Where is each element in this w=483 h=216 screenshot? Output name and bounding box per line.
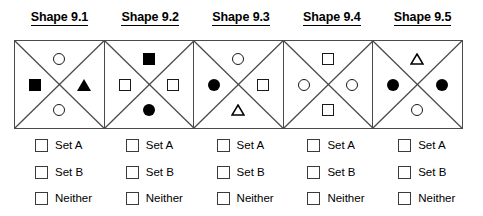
- option-label: Set B: [146, 166, 174, 179]
- shape-header-2: Shape 9.2: [105, 10, 196, 32]
- options-grid: Set ASet BNeitherSet ASet BNeitherSet AS…: [14, 132, 468, 212]
- glyph-circle-open: [411, 104, 423, 116]
- option-label: Set B: [418, 166, 446, 179]
- shape-slot-left: [294, 75, 314, 95]
- options-column-3: Set ASet BNeither: [196, 132, 287, 212]
- shape-box-5: [372, 40, 463, 129]
- option-row[interactable]: Neither: [286, 185, 377, 212]
- shape-header-5: Shape 9.5: [377, 10, 468, 32]
- options-column-4: Set ASet BNeither: [286, 132, 377, 212]
- shape-slot-bottom: [318, 100, 338, 120]
- glyph-square-open: [322, 53, 334, 65]
- glyph-circle-open: [53, 104, 65, 116]
- shape-slot-left: [115, 75, 135, 95]
- option-label: Set A: [327, 139, 355, 152]
- option-label: Set A: [237, 139, 265, 152]
- checkbox[interactable]: [307, 139, 320, 152]
- option-row[interactable]: Neither: [377, 185, 468, 212]
- glyph-circle-filled: [436, 79, 448, 91]
- shape-slot-bottom: [407, 100, 427, 120]
- glyph-circle-open: [232, 53, 244, 65]
- option-label: Set B: [327, 166, 355, 179]
- shape-slot-right: [74, 75, 94, 95]
- glyph-circle-filled: [208, 79, 220, 91]
- option-row[interactable]: Neither: [14, 185, 105, 212]
- shape-header-label: Shape 9.5: [394, 10, 451, 26]
- shape-slot-left: [383, 75, 403, 95]
- option-row[interactable]: Set A: [105, 132, 196, 159]
- glyph-square-filled: [29, 79, 41, 91]
- shape-slot-top: [228, 49, 248, 69]
- shape-slot-top: [49, 49, 69, 69]
- option-label: Neither: [327, 192, 364, 205]
- checkbox[interactable]: [217, 139, 230, 152]
- shape-slot-top: [139, 49, 159, 69]
- shape-header-4: Shape 9.4: [286, 10, 377, 32]
- glyph-circle-open: [346, 79, 358, 91]
- option-row[interactable]: Set B: [14, 159, 105, 186]
- glyph-circle-filled: [387, 79, 399, 91]
- checkbox[interactable]: [398, 139, 411, 152]
- glyph-square-filled: [143, 53, 155, 65]
- shape-header-label: Shape 9.2: [121, 10, 178, 26]
- options-column-2: Set ASet BNeither: [105, 132, 196, 212]
- shape-header-label: Shape 9.4: [303, 10, 360, 26]
- checkbox[interactable]: [126, 192, 139, 205]
- checkbox[interactable]: [398, 166, 411, 179]
- checkbox[interactable]: [35, 192, 48, 205]
- option-row[interactable]: Set A: [14, 132, 105, 159]
- option-row[interactable]: Set A: [286, 132, 377, 159]
- shape-slot-right: [253, 75, 273, 95]
- glyph-square-open: [167, 79, 179, 91]
- option-label: Set B: [237, 166, 265, 179]
- checkbox[interactable]: [217, 192, 230, 205]
- shape-slot-top: [318, 49, 338, 69]
- checkbox[interactable]: [126, 166, 139, 179]
- shape-boxes-row: [14, 40, 468, 129]
- option-row[interactable]: Neither: [196, 185, 287, 212]
- shape-header-row: Shape 9.1Shape 9.2Shape 9.3Shape 9.4Shap…: [14, 10, 468, 32]
- option-row[interactable]: Set A: [377, 132, 468, 159]
- shape-box-3: [193, 40, 284, 129]
- checkbox[interactable]: [398, 192, 411, 205]
- shape-slot-right: [432, 75, 452, 95]
- option-row[interactable]: Set A: [196, 132, 287, 159]
- shape-slot-top: [407, 49, 427, 69]
- option-label: Neither: [146, 192, 183, 205]
- shape-slot-left: [25, 75, 45, 95]
- shape-header-label: Shape 9.1: [31, 10, 88, 26]
- shape-box-4: [283, 40, 374, 129]
- checkbox[interactable]: [35, 166, 48, 179]
- option-label: Set B: [55, 166, 83, 179]
- shape-header-3: Shape 9.3: [196, 10, 287, 32]
- glyph-square-open: [119, 79, 131, 91]
- glyph-triangle-filled: [77, 79, 91, 91]
- option-row[interactable]: Set B: [286, 159, 377, 186]
- option-row[interactable]: Set B: [377, 159, 468, 186]
- glyph-triangle-open: [231, 104, 245, 116]
- option-label: Neither: [237, 192, 274, 205]
- shape-header-1: Shape 9.1: [14, 10, 105, 32]
- options-column-5: Set ASet BNeither: [377, 132, 468, 212]
- option-row[interactable]: Neither: [105, 185, 196, 212]
- checkbox[interactable]: [307, 192, 320, 205]
- option-label: Set A: [146, 139, 174, 152]
- glyph-triangle-open: [410, 53, 424, 65]
- shape-slot-bottom: [139, 100, 159, 120]
- glyph-circle-open: [53, 53, 65, 65]
- glyph-circle-filled: [143, 104, 155, 116]
- option-row[interactable]: Set B: [105, 159, 196, 186]
- shape-slot-bottom: [228, 100, 248, 120]
- glyph-square-open: [322, 104, 334, 116]
- shape-slot-right: [163, 75, 183, 95]
- checkbox[interactable]: [307, 166, 320, 179]
- option-label: Set A: [418, 139, 446, 152]
- checkbox[interactable]: [126, 139, 139, 152]
- shape-slot-bottom: [49, 100, 69, 120]
- option-label: Neither: [418, 192, 455, 205]
- checkbox[interactable]: [217, 166, 230, 179]
- shape-slot-right: [342, 75, 362, 95]
- option-row[interactable]: Set B: [196, 159, 287, 186]
- shape-slot-left: [204, 75, 224, 95]
- checkbox[interactable]: [35, 139, 48, 152]
